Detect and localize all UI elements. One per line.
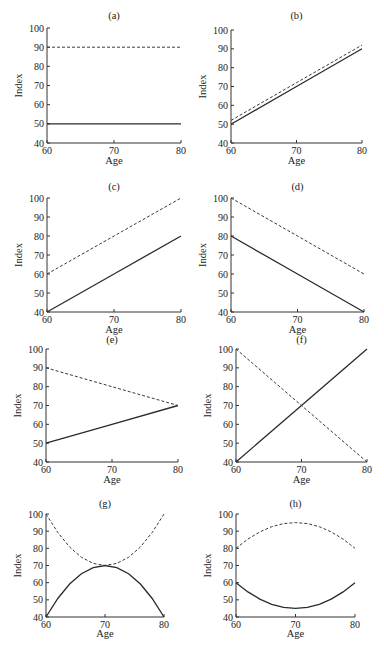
x-tick-label: 60 <box>226 145 236 156</box>
x-axis-label: Age <box>103 474 121 485</box>
panel-a: (a)405060708090100607080IndexAge <box>13 10 186 166</box>
y-tick-label: 70 <box>34 250 44 261</box>
y-tick-label: 60 <box>34 99 44 110</box>
y-tick-label: 80 <box>218 62 228 73</box>
y-tick-label: 100 <box>28 509 43 520</box>
y-tick-label: 80 <box>223 381 233 392</box>
y-tick-label: 90 <box>33 362 43 373</box>
y-tick-label: 80 <box>218 231 228 242</box>
y-tick-label: 70 <box>33 560 43 571</box>
solid-series-line <box>231 49 362 124</box>
y-tick-label: 50 <box>33 438 43 449</box>
x-tick-label: 60 <box>226 314 236 325</box>
y-tick-label: 90 <box>34 212 44 223</box>
y-tick-label: 100 <box>29 193 44 204</box>
x-tick-label: 80 <box>159 619 169 630</box>
y-tick-label: 60 <box>223 577 233 588</box>
y-tick-label: 70 <box>218 250 228 261</box>
panel-title: (e) <box>106 334 118 346</box>
x-axis-label: Age <box>105 155 123 166</box>
y-tick-label: 50 <box>34 288 44 299</box>
x-tick-label: 80 <box>359 314 369 325</box>
solid-series-line <box>231 236 364 312</box>
y-tick-label: 80 <box>33 543 43 554</box>
x-tick-label: 80 <box>176 145 186 156</box>
y-tick-label: 80 <box>223 543 233 554</box>
dashed-series-line <box>46 514 164 566</box>
y-tick-label: 70 <box>33 400 43 411</box>
x-tick-label: 80 <box>362 464 372 475</box>
y-tick-label: 70 <box>34 80 44 91</box>
solid-series-line <box>46 566 164 618</box>
y-tick-label: 50 <box>223 438 233 449</box>
y-axis-label: Index <box>13 242 24 267</box>
y-axis-label: Index <box>202 553 213 578</box>
y-tick-label: 60 <box>33 577 43 588</box>
y-tick-label: 100 <box>218 509 233 520</box>
figure-grid: (a)405060708090100607080IndexAge(b)40506… <box>0 0 384 656</box>
panel-f: (f)405060708090100607080IndexAge <box>202 334 372 485</box>
chart-canvas: (a)405060708090100607080IndexAge(b)40506… <box>0 0 384 656</box>
x-tick-label: 60 <box>42 314 52 325</box>
y-tick-label: 60 <box>34 269 44 280</box>
y-tick-label: 50 <box>218 119 228 130</box>
dashed-series-line <box>47 198 181 274</box>
x-axis-label: Age <box>96 628 114 639</box>
panel-e: (e)405060708090100607080IndexAge <box>12 334 183 485</box>
y-tick-label: 50 <box>34 118 44 129</box>
y-tick-label: 80 <box>34 61 44 72</box>
dashed-series-line <box>231 45 362 120</box>
x-tick-label: 60 <box>42 145 52 156</box>
y-axis-label: Index <box>12 393 23 418</box>
panel-title: (g) <box>99 498 112 510</box>
y-axis-label: Index <box>197 74 208 99</box>
x-tick-label: 80 <box>173 464 183 475</box>
x-axis-label: Age <box>287 628 305 639</box>
panel-c: (c)405060708090100607080IndexAge <box>13 181 186 335</box>
y-tick-label: 90 <box>33 526 43 537</box>
y-tick-label: 50 <box>223 594 233 605</box>
panel-h: (h)405060708090100607080IndexAge <box>202 498 360 639</box>
panel-title: (b) <box>290 10 303 22</box>
y-tick-label: 70 <box>223 400 233 411</box>
y-tick-label: 70 <box>218 81 228 92</box>
x-tick-label: 60 <box>41 464 51 475</box>
x-tick-label: 80 <box>350 619 360 630</box>
y-axis-label: Index <box>12 553 23 578</box>
x-tick-label: 80 <box>176 314 186 325</box>
y-axis-label: Index <box>197 242 208 267</box>
y-tick-label: 80 <box>33 381 43 392</box>
y-tick-label: 90 <box>223 362 233 373</box>
panel-title: (c) <box>108 181 120 193</box>
y-tick-label: 60 <box>218 100 228 111</box>
solid-series-line <box>47 236 181 312</box>
x-tick-label: 80 <box>357 145 367 156</box>
dashed-series-line <box>236 523 355 549</box>
panel-title: (h) <box>289 498 302 510</box>
panel-b: (b)405060708090100607080IndexAge <box>197 10 367 166</box>
y-tick-label: 70 <box>223 560 233 571</box>
dashed-series-line <box>46 368 178 406</box>
y-tick-label: 60 <box>218 269 228 280</box>
y-tick-label: 100 <box>213 25 228 36</box>
x-axis-label: Age <box>293 474 311 485</box>
dashed-series-line <box>231 198 364 274</box>
solid-series-line <box>236 583 355 609</box>
x-tick-label: 60 <box>231 464 241 475</box>
solid-series-line <box>46 406 178 444</box>
y-tick-label: 90 <box>218 212 228 223</box>
y-tick-label: 100 <box>29 23 44 34</box>
y-tick-label: 60 <box>33 419 43 430</box>
panel-title: (f) <box>296 334 307 346</box>
y-axis-label: Index <box>202 393 213 418</box>
y-tick-label: 80 <box>34 231 44 242</box>
y-tick-label: 100 <box>218 344 233 355</box>
y-tick-label: 100 <box>213 193 228 204</box>
y-tick-label: 100 <box>28 344 43 355</box>
panel-d: (d)405060708090100607080IndexAge <box>197 181 369 335</box>
x-tick-label: 60 <box>41 619 51 630</box>
y-tick-label: 90 <box>223 526 233 537</box>
x-axis-label: Age <box>288 155 306 166</box>
panel-g: (g)405060708090100607080IndexAge <box>12 498 169 639</box>
y-tick-label: 90 <box>218 43 228 54</box>
